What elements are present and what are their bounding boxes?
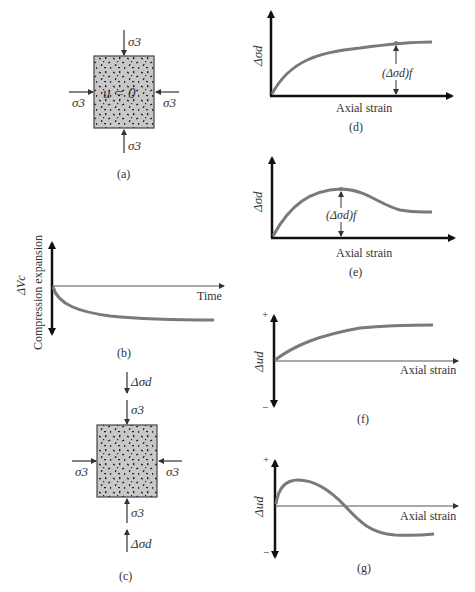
- panel-c: Δσd σ3 σ3 Δσd σ3 σ3 (c): [72, 372, 182, 583]
- top-stress-label: σ3: [131, 402, 144, 417]
- volume-change-symbol: ΔVc: [14, 275, 28, 296]
- panel-d-caption: (d): [349, 120, 363, 134]
- peak-point: [339, 187, 343, 191]
- left-stress-label: σ3: [75, 464, 88, 479]
- time-axis-label: Time: [197, 289, 222, 303]
- bottom-deviator-label: Δσd: [130, 536, 152, 551]
- top-stress-label: σ3: [128, 34, 141, 49]
- panel-c-caption: (c): [119, 569, 132, 583]
- x-axis-label: Axial strain: [400, 363, 456, 377]
- x-axis-label: Axial strain: [400, 509, 456, 523]
- panel-d: (Δσd)f Δσd Axial strain (d): [250, 12, 452, 134]
- panel-e-caption: (e): [349, 265, 362, 279]
- panel-e: (Δσd)f Δσd Axial strain (e): [250, 158, 454, 279]
- minus-sign: −: [263, 546, 269, 558]
- panel-g: + − Δud Axial strain (g): [251, 453, 458, 575]
- bottom-stress-label: σ3: [131, 505, 144, 520]
- plus-sign: +: [262, 308, 268, 320]
- failure-stress-label: (Δσd)f: [382, 66, 414, 80]
- panel-f: + − Δud Axial strain (f): [251, 308, 458, 426]
- minus-sign: −: [262, 401, 268, 413]
- y-axis-label: Δσd: [250, 45, 265, 67]
- failure-stress-label: (Δσd)f: [326, 208, 358, 222]
- right-stress-label: σ3: [163, 95, 176, 110]
- x-axis-label: Axial strain: [336, 101, 392, 115]
- failure-point: [394, 41, 398, 45]
- panel-b: Time ΔVc Compression expansion (b): [14, 235, 224, 360]
- plus-sign: +: [263, 453, 269, 465]
- bottom-stress-label: σ3: [128, 138, 141, 153]
- y-axis-label: Δud: [251, 351, 266, 373]
- panel-g-caption: (g): [357, 561, 371, 575]
- panel-a-caption: (a): [117, 167, 130, 181]
- pore-pressure-label: u = 0: [103, 85, 136, 101]
- panel-b-caption: (b): [117, 346, 131, 360]
- volume-axis-label: Compression expansion: [31, 235, 45, 350]
- top-deviator-label: Δσd: [130, 374, 152, 389]
- y-axis-label: Δσd: [250, 191, 265, 213]
- pore-pressure-curve: [276, 480, 434, 535]
- triaxial-cu-test-figure: u = 0 σ3 σ3 σ3 σ3 (a) Time ΔVc Compressi…: [0, 0, 475, 592]
- x-axis-label: Axial strain: [336, 246, 392, 260]
- left-stress-label: σ3: [72, 95, 85, 110]
- volume-change-curve: [53, 287, 214, 320]
- pore-pressure-curve: [275, 325, 433, 360]
- right-stress-label: σ3: [166, 464, 179, 479]
- soil-sample-loaded: [97, 425, 157, 497]
- y-axis-label: Δud: [251, 496, 266, 518]
- panel-a: u = 0 σ3 σ3 σ3 σ3 (a): [69, 30, 179, 181]
- panel-f-caption: (f): [357, 412, 369, 426]
